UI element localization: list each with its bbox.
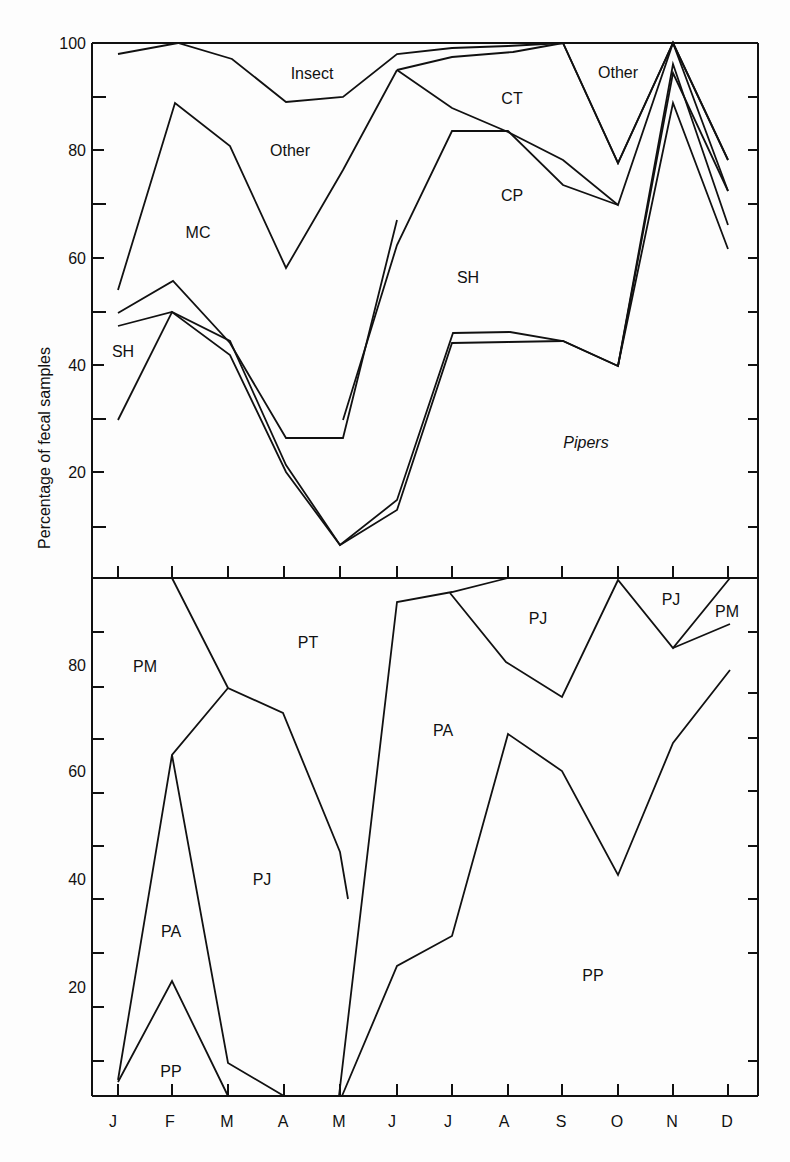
xtick-jan: J — [109, 1113, 117, 1130]
label-pj-1: PJ — [253, 871, 272, 888]
left-y-ticks-bottom — [92, 632, 104, 1061]
ct-lower-line — [397, 43, 728, 205]
y-tick-labels: 100 80 60 40 20 80 60 40 20 — [59, 35, 86, 996]
xtick-oct: O — [611, 1113, 623, 1130]
ytick-top-60: 60 — [68, 250, 86, 267]
label-pm-2: PM — [715, 603, 739, 620]
cp-lower-line — [618, 73, 728, 366]
label-other-1: Other — [270, 142, 311, 159]
label-cp: CP — [501, 187, 523, 204]
bottom-region-labels: PM PT PA PJ PA PP PJ PP PJ PM — [133, 591, 739, 1080]
xtick-feb: F — [165, 1113, 175, 1130]
label-pa-1: PA — [161, 923, 181, 940]
pj-aug-line — [450, 578, 730, 697]
y-axis-label: Percentage of fecal samples — [36, 347, 53, 549]
right-y-ticks-top — [748, 97, 758, 527]
mc-upper-line — [118, 70, 397, 290]
xtick-apr: A — [278, 1113, 289, 1130]
label-pp-2: PP — [582, 967, 603, 984]
label-mc: MC — [186, 224, 211, 241]
label-sh-2: SH — [457, 269, 479, 286]
pm-pt-line — [172, 578, 348, 899]
bottom-panel-series — [118, 578, 730, 1096]
ytick-bottom-40: 40 — [68, 871, 86, 888]
ytick-top-20: 20 — [68, 464, 86, 481]
ytick-top-40: 40 — [68, 357, 86, 374]
ytick-top-80: 80 — [68, 142, 86, 159]
label-ct: CT — [501, 90, 523, 107]
cp-upper-line — [343, 131, 618, 420]
label-pj-2: PJ — [529, 610, 548, 627]
xtick-jun: J — [388, 1113, 396, 1130]
right-y-ticks-bottom — [748, 632, 758, 1061]
xtick-may: M — [332, 1113, 345, 1130]
sh-upper-line — [118, 64, 728, 545]
pm-dec-line — [673, 624, 730, 648]
pipers-upper-line — [118, 103, 728, 545]
insect-line — [118, 43, 728, 163]
label-insect: Insect — [291, 65, 334, 82]
pa-may-line — [339, 578, 508, 1096]
axes-frame — [92, 43, 758, 1096]
label-pp-1: PP — [160, 1063, 181, 1080]
xtick-nov: N — [666, 1113, 678, 1130]
ytick-bottom-20: 20 — [68, 979, 86, 996]
xtick-dec: D — [721, 1113, 733, 1130]
label-pipers: Pipers — [563, 434, 608, 451]
xtick-aug: A — [499, 1113, 510, 1130]
xtick-mar: M — [220, 1113, 233, 1130]
other-oct-line — [563, 43, 728, 163]
ytick-bottom-60: 60 — [68, 763, 86, 780]
label-pj-3: PJ — [662, 591, 681, 608]
xtick-jul: J — [444, 1113, 452, 1130]
top-region-labels: Insect Other MC SH CT CP SH Other Pipers — [112, 64, 639, 451]
label-pa-2: PA — [433, 722, 453, 739]
x-tick-labels: J F M A M J J A S O N D — [109, 1113, 733, 1130]
pa-upper-line — [172, 755, 284, 1096]
label-other-2: Other — [598, 64, 639, 81]
xtick-sep: S — [556, 1113, 567, 1130]
pj-upper-line — [118, 688, 228, 1080]
ytick-top-100: 100 — [59, 35, 86, 52]
top-panel-series — [118, 43, 728, 545]
label-pt: PT — [298, 634, 319, 651]
pp-upper-line-2 — [342, 670, 730, 1096]
left-y-ticks-top — [92, 97, 106, 527]
figure: 100 80 60 40 20 80 60 40 20 Percentage o… — [0, 0, 790, 1162]
label-sh-1: SH — [112, 343, 134, 360]
ytick-bottom-80: 80 — [68, 657, 86, 674]
label-pm-1: PM — [133, 658, 157, 675]
mc-lower-line — [118, 220, 397, 438]
